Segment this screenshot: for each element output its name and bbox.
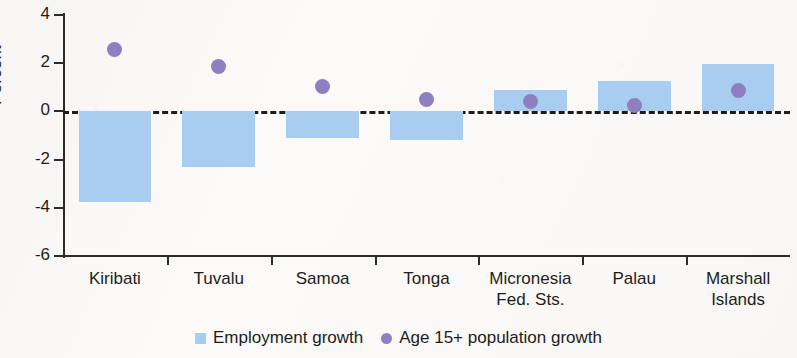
circle-dot-icon <box>381 333 392 344</box>
y-axis-tick <box>54 62 64 64</box>
category-label-line1: Samoa <box>296 269 350 288</box>
legend-label-population-growth: Age 15+ population growth <box>399 328 602 348</box>
x-axis-tick <box>582 256 584 265</box>
category-label-line2: Islands <box>686 289 790 310</box>
data-point-marker <box>419 92 434 107</box>
x-axis-tick <box>167 256 169 265</box>
x-axis-category-label: Samoa <box>271 268 375 289</box>
bar <box>79 111 152 201</box>
data-point-marker <box>731 83 746 98</box>
category-label-line1: Micronesia <box>489 269 571 288</box>
data-point-marker <box>211 59 226 74</box>
bar <box>182 111 255 166</box>
x-axis-category-label: Tuvalu <box>167 268 271 289</box>
category-label-line1: Marshall <box>706 269 770 288</box>
category-label-line1: Palau <box>612 269 655 288</box>
chart-legend: Employment growth Age 15+ population gro… <box>0 328 797 348</box>
data-point-marker <box>523 94 538 109</box>
y-axis-tick <box>54 14 64 16</box>
legend-label-employment-growth: Employment growth <box>213 328 363 348</box>
category-label-line2: Fed. Sts. <box>478 289 582 310</box>
x-axis-tick <box>271 256 273 265</box>
category-label-line1: Tonga <box>403 269 449 288</box>
y-axis-tick-label: 0 <box>0 100 50 120</box>
y-axis-tick <box>54 255 64 257</box>
square-swatch-icon <box>195 333 206 344</box>
x-axis-tick <box>686 256 688 265</box>
x-axis-tick <box>375 256 377 265</box>
y-axis-tick-label: -6 <box>0 245 50 265</box>
x-axis-category-label: Kiribati <box>63 268 167 289</box>
x-axis-category-label: Tonga <box>375 268 479 289</box>
y-axis-line <box>63 13 65 258</box>
bar <box>390 111 463 140</box>
y-axis-tick-label: 2 <box>0 52 50 72</box>
chart-figure: Percent 420-2-4-6 KiribatiTuvaluSamoaTon… <box>0 0 797 358</box>
bar <box>286 111 359 138</box>
x-axis-category-label: MarshallIslands <box>686 268 790 310</box>
category-label-line1: Tuvalu <box>194 269 244 288</box>
x-axis-tick <box>478 256 480 265</box>
legend-item-employment-growth: Employment growth <box>195 328 363 348</box>
data-point-marker <box>627 98 642 113</box>
category-label-line1: Kiribati <box>89 269 141 288</box>
y-axis-tick-label: -2 <box>0 149 50 169</box>
y-axis-tick-label: 4 <box>0 4 50 24</box>
y-axis-tick <box>54 207 64 209</box>
y-axis-tick-label: -4 <box>0 197 50 217</box>
data-point-marker <box>107 42 122 57</box>
data-point-marker <box>315 79 330 94</box>
x-axis-line <box>63 255 790 257</box>
x-axis-category-label: Palau <box>582 268 686 289</box>
y-axis-tick <box>54 159 64 161</box>
legend-item-population-growth: Age 15+ population growth <box>381 328 602 348</box>
x-axis-category-label: MicronesiaFed. Sts. <box>478 268 582 310</box>
